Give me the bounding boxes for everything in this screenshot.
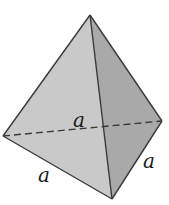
bottom-left-edge-label: a <box>38 163 50 187</box>
bottom-right-edge-label: a <box>143 149 155 173</box>
hidden-edge-label: a <box>73 108 85 132</box>
tetrahedron-figure: a a a <box>0 0 169 205</box>
